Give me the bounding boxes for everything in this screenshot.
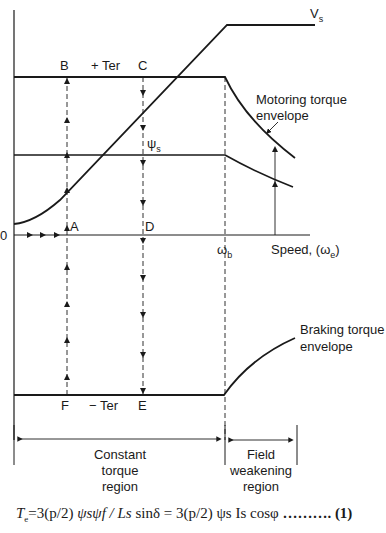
diagram-canvas (0, 0, 386, 533)
braking-torque-envelope (14, 338, 295, 395)
omega-b-label: ωb (217, 243, 232, 262)
vs-label: Vs (310, 7, 323, 26)
point-e-label: E (138, 399, 147, 413)
braking-label-line2: envelope (300, 340, 353, 354)
speed-marker-arrow-1 (272, 181, 278, 187)
origin-to-a-arrowheads (27, 232, 60, 238)
minus-ter-label: − Ter (89, 399, 118, 413)
speed-marker-arrow-2 (272, 146, 278, 152)
motoring-pointer (268, 122, 278, 132)
point-d-label: D (145, 220, 154, 234)
field-weakening-region-label: Field weakening region (222, 448, 300, 494)
psi-s-label: ψs (147, 137, 161, 156)
point-c-label: C (138, 59, 147, 73)
point-b-label: B (60, 59, 69, 73)
braking-label-line1: Braking torque (300, 323, 385, 337)
point-f-label: F (61, 399, 69, 413)
motoring-label-line2: envelope (256, 109, 309, 123)
motoring-label-line1: Motoring torque (256, 93, 347, 107)
plus-ter-label: + Ter (91, 59, 120, 73)
constant-torque-region-label: Constant torque region (70, 448, 170, 494)
torque-equation: Te=3(p/2) ψsψf / Ls sinδ = 3(p/2) ψs Is … (16, 505, 352, 524)
origin-label: 0 (0, 229, 7, 243)
speed-axis-label: Speed, (ωe) (271, 243, 340, 262)
psi-s-curve (14, 155, 293, 187)
vs-curve (14, 25, 315, 224)
point-a-label: A (70, 220, 79, 234)
